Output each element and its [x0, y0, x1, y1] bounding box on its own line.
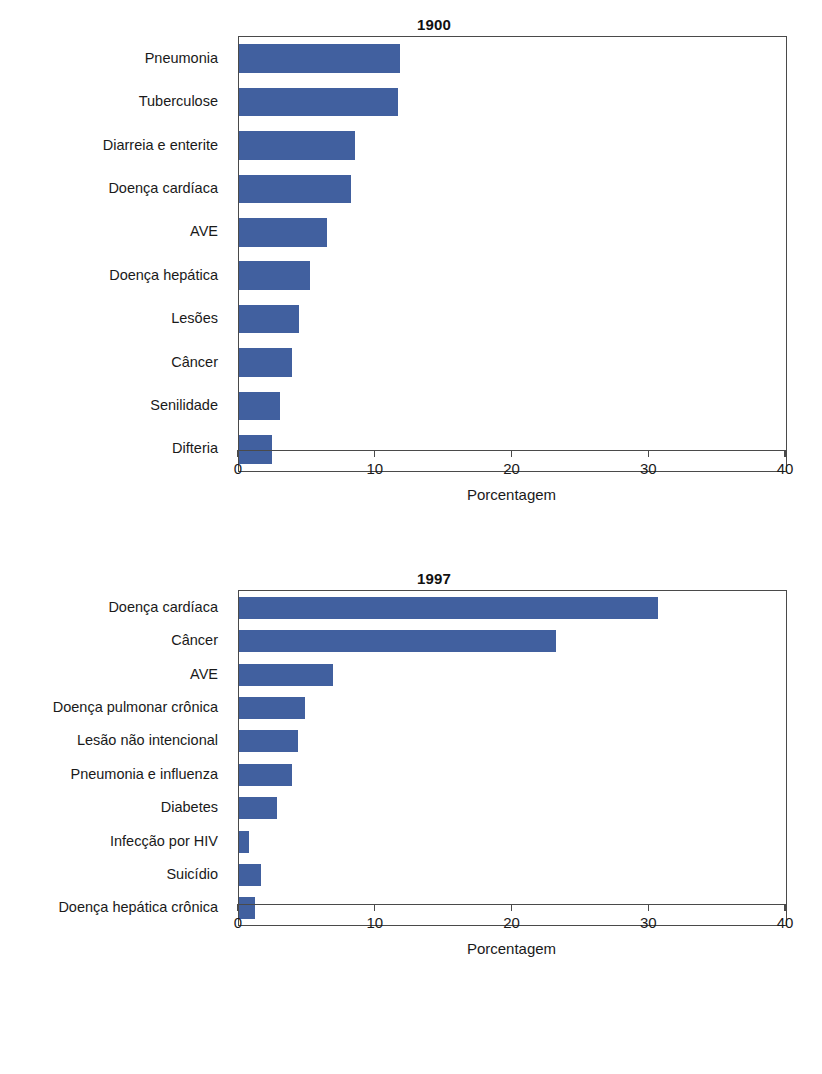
category-label: Doença hepática crônica [58, 900, 218, 915]
x-axis-tick-label: 10 [366, 460, 383, 477]
bar [239, 597, 658, 619]
category-label: Senilidade [150, 398, 218, 413]
category-label: Difteria [172, 441, 218, 456]
x-axis-tick-label: 20 [503, 914, 520, 931]
x-axis-tick-label: 20 [503, 460, 520, 477]
bar [239, 218, 327, 247]
category-label: Tuberculose [139, 94, 218, 109]
chart-title-1997: 1997 [0, 568, 822, 590]
x-axis-tick-label: 0 [234, 914, 242, 931]
category-label: AVE [190, 224, 218, 239]
category-label: Doença pulmonar crônica [53, 700, 218, 715]
bar [239, 175, 351, 204]
category-label: Infecção por HIV [110, 834, 218, 849]
x-axis-tick [784, 450, 785, 457]
bar [239, 261, 310, 290]
category-label: Câncer [171, 355, 218, 370]
category-label: Doença cardíaca [108, 600, 218, 615]
x-axis-tick [237, 450, 238, 457]
x-axis-tick [784, 904, 785, 911]
x-axis-tick-label: 30 [640, 914, 657, 931]
bar [239, 764, 292, 786]
category-label: Câncer [171, 633, 218, 648]
category-label: Diarreia e enterite [103, 138, 218, 153]
x-axis-tick [511, 450, 512, 457]
x-axis-tick-label: 40 [777, 460, 794, 477]
category-label: Doença cardíaca [108, 181, 218, 196]
x-axis-title-1997: Porcentagem [238, 940, 785, 957]
category-label: Diabetes [161, 800, 218, 815]
x-axis-tick-label: 0 [234, 460, 242, 477]
x-axis-1997: Porcentagem 010203040 [238, 904, 785, 905]
category-label: Lesões [171, 311, 218, 326]
chart-body-1900: PneumoniaTuberculoseDiarreia e enteriteD… [0, 36, 822, 472]
category-label: Doença hepática [109, 268, 218, 283]
bar [239, 305, 299, 334]
bar [239, 664, 333, 686]
bar [239, 44, 400, 73]
x-axis-1900: Porcentagem 010203040 [238, 450, 785, 451]
bar [239, 131, 355, 160]
chart-1997: 1997 Doença cardíacaCâncerAVEDoença pulm… [0, 568, 822, 926]
category-label: Pneumonia [145, 51, 218, 66]
chart-body-1997: Doença cardíacaCâncerAVEDoença pulmonar … [0, 590, 822, 926]
x-axis-tick [648, 904, 649, 911]
bar [239, 88, 398, 117]
chart-1900: 1900 PneumoniaTuberculoseDiarreia e ente… [0, 14, 822, 472]
figure-canvas: 1900 PneumoniaTuberculoseDiarreia e ente… [0, 0, 822, 1074]
x-axis-tick-label: 30 [640, 460, 657, 477]
x-axis-tick-label: 10 [366, 914, 383, 931]
x-axis-tick [237, 904, 238, 911]
x-axis-tick [511, 904, 512, 911]
category-label-gutter-1997: Doença cardíacaCâncerAVEDoença pulmonar … [0, 590, 228, 926]
plot-area-1997 [238, 590, 787, 926]
plot-area-1900 [238, 36, 787, 472]
category-label: Pneumonia e influenza [70, 767, 218, 782]
bar [239, 392, 280, 421]
category-label: Lesão não intencional [77, 733, 218, 748]
category-label-gutter-1900: PneumoniaTuberculoseDiarreia e enteriteD… [0, 36, 228, 472]
x-axis-tick [648, 450, 649, 457]
bar [239, 797, 277, 819]
bar [239, 864, 261, 886]
x-axis-tick [374, 450, 375, 457]
bar [239, 831, 249, 853]
x-axis-tick [374, 904, 375, 911]
bar [239, 697, 305, 719]
bar [239, 630, 556, 652]
bar [239, 730, 298, 752]
chart-title-1900: 1900 [0, 14, 822, 36]
category-label: AVE [190, 667, 218, 682]
bar [239, 348, 292, 377]
x-axis-title-1900: Porcentagem [238, 486, 785, 503]
x-axis-tick-label: 40 [777, 914, 794, 931]
category-label: Suicídio [166, 867, 218, 882]
